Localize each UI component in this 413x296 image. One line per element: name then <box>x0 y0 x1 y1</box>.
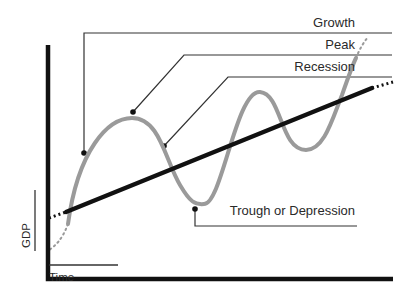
business-cycle-diagram: Growth Peak Recession Trough or Depressi… <box>0 0 413 296</box>
y-axis-label: GDP <box>20 223 32 248</box>
label-peak: Peak <box>325 37 355 52</box>
trend-line-extension-start <box>49 212 66 218</box>
label-recession: Recession <box>294 59 355 74</box>
trend-line-extension-end <box>372 82 393 88</box>
cycle-curve-extension-start <box>49 224 68 250</box>
trend-line <box>66 88 372 212</box>
x-axis-label: Time <box>49 271 74 283</box>
axes <box>48 45 393 279</box>
label-trough: Trough or Depression <box>230 203 355 218</box>
label-growth: Growth <box>313 15 355 30</box>
cycle-curve <box>68 58 356 224</box>
